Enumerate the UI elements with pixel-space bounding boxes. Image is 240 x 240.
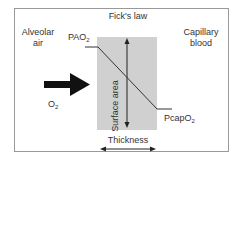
thickness-arrow-left-icon — [100, 147, 106, 152]
surface-area-label: Surface area — [110, 76, 121, 136]
thickness-arrow-right-icon — [150, 147, 156, 152]
thickness-label: Thickness — [100, 135, 156, 146]
o2-arrow-shaft — [44, 81, 72, 88]
o2-arrow-head-icon — [70, 73, 90, 96]
